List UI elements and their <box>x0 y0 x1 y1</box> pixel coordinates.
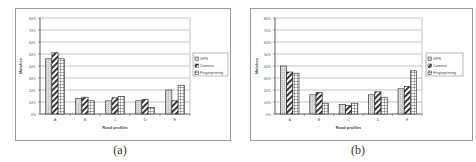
legend-label: GPS <box>200 57 208 61</box>
y-tick-label: 80% <box>264 17 272 21</box>
y-tick-label: 60% <box>264 41 272 45</box>
figure-b: 0%10%20%30%40%50%60%70%80%ABCDERoad prof… <box>240 0 476 162</box>
y-tick-label: 30% <box>264 77 272 81</box>
y-tick-label: 40% <box>264 65 272 69</box>
bar-a-gps <box>46 59 52 114</box>
x-tick-label: B <box>318 118 321 122</box>
bar-d-camera <box>375 92 381 114</box>
bar-chart-b: 0%10%20%30%40%50%60%70%80%ABCDERoad prof… <box>240 0 476 140</box>
legend-swatch <box>195 57 199 61</box>
caption-b: (b) <box>338 143 378 158</box>
x-tick-label: A <box>54 118 57 122</box>
x-tick-label: C <box>114 118 117 122</box>
bar-a-gps <box>280 66 286 114</box>
legend-swatch <box>428 71 432 75</box>
y-tick-label: 0% <box>266 113 272 117</box>
legend-swatch <box>428 57 432 61</box>
x-tick-label: E <box>174 118 177 122</box>
bar-c-gps <box>339 104 345 114</box>
bar-c-fingerprinting <box>352 103 358 114</box>
figure-a: 0%10%20%30%40%50%60%70%80%ABCDERoad prof… <box>0 0 240 162</box>
bar-c-camera <box>112 98 118 114</box>
bar-e-gps <box>398 89 404 114</box>
y-tick-label: 50% <box>264 53 272 57</box>
legend-label: GPS <box>433 57 441 61</box>
x-tick-label: D <box>377 118 380 122</box>
y-tick-label: 70% <box>264 29 272 33</box>
bar-a-camera <box>287 72 293 114</box>
legend-swatch <box>195 71 199 75</box>
bar-b-gps <box>76 98 82 114</box>
bar-b-gps <box>310 95 316 114</box>
y-axis-title: Matches <box>254 57 259 74</box>
bar-a-fingerprinting <box>293 73 299 114</box>
bar-e-fingerprinting <box>410 71 416 114</box>
y-tick-label: 0% <box>31 113 37 117</box>
legend-label: Fingerprinting <box>200 71 223 75</box>
bar-a-camera <box>52 53 58 114</box>
y-tick-label: 30% <box>29 77 37 81</box>
x-tick-label: C <box>347 118 350 122</box>
caption-a: (a) <box>100 143 140 158</box>
bar-b-camera <box>316 92 322 114</box>
bar-c-camera <box>345 106 351 114</box>
y-tick-label: 50% <box>29 53 37 57</box>
bar-e-camera <box>404 86 410 114</box>
bar-b-fingerprinting <box>88 101 94 114</box>
bar-c-fingerprinting <box>118 97 124 114</box>
x-tick-label: A <box>288 118 291 122</box>
y-tick-label: 70% <box>29 29 37 33</box>
bar-d-fingerprinting <box>148 107 154 114</box>
y-tick-label: 20% <box>264 89 272 93</box>
x-tick-label: D <box>144 118 147 122</box>
bar-d-gps <box>136 101 142 114</box>
legend: GPSCameraFingerprinting <box>426 53 463 76</box>
bar-e-camera <box>172 101 178 114</box>
legend-swatch <box>428 64 432 68</box>
x-axis-title: Road profiles <box>336 125 362 130</box>
y-tick-label: 60% <box>29 41 37 45</box>
bar-d-gps <box>369 95 375 114</box>
x-tick-label: E <box>406 118 409 122</box>
y-tick-label: 10% <box>264 101 272 105</box>
bar-d-camera <box>142 100 148 114</box>
bar-e-gps <box>166 90 172 114</box>
y-tick-label: 10% <box>29 101 37 105</box>
bar-e-fingerprinting <box>178 85 184 114</box>
bar-b-camera <box>82 97 88 114</box>
legend-swatch <box>195 64 199 68</box>
y-tick-label: 80% <box>29 17 37 21</box>
y-axis-title: Matches <box>18 57 23 74</box>
bar-c-gps <box>106 101 112 114</box>
legend-label: Camera <box>433 64 447 68</box>
y-tick-label: 40% <box>29 65 37 69</box>
legend-label: Camera <box>200 64 214 68</box>
legend-label: Fingerprinting <box>433 71 456 75</box>
x-axis-title: Road profiles <box>102 125 128 130</box>
legend: GPSCameraFingerprinting <box>193 53 228 76</box>
bar-a-fingerprinting <box>58 59 64 114</box>
y-tick-label: 20% <box>29 89 37 93</box>
bar-chart-a: 0%10%20%30%40%50%60%70%80%ABCDERoad prof… <box>0 0 240 140</box>
x-tick-label: B <box>84 118 87 122</box>
bar-b-fingerprinting <box>322 103 328 114</box>
bar-d-fingerprinting <box>381 97 387 114</box>
